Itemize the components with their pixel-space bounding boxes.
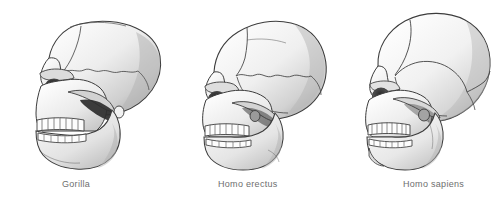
hominid-skull-comparison-figure: Gorilla Homo erectus Homo sapiens [0, 0, 501, 199]
caption-homo-erectus: Homo erectus [218, 179, 278, 189]
erectus-auditory-meatus [250, 111, 260, 122]
skull-illustration-homo-sapiens [352, 0, 497, 175]
erectus-maxillary-dentition [205, 124, 249, 136]
gorilla-skull-group [36, 21, 161, 169]
caption-homo-sapiens: Homo sapiens [403, 179, 464, 189]
erectus-skull-group [203, 21, 327, 170]
sapiens-maxillary-dentition [368, 123, 410, 135]
caption-gorilla: Gorilla [62, 179, 90, 189]
skull-illustration-gorilla [18, 0, 168, 175]
sapiens-skull-group [366, 13, 490, 170]
skull-illustration-homo-erectus [190, 0, 335, 175]
sapiens-auditory-meatus [419, 109, 430, 121]
gorilla-maxillary-dentition [37, 118, 84, 131]
